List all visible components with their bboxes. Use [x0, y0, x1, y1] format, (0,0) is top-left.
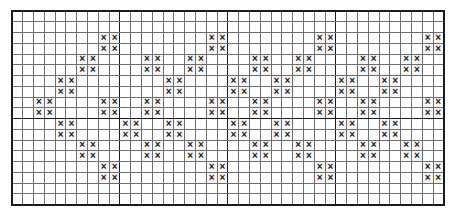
grid-cell-empty[interactable]	[239, 140, 250, 151]
grid-cell-empty[interactable]	[282, 22, 293, 33]
grid-cell-empty[interactable]	[142, 11, 153, 22]
grid-cell-empty[interactable]	[23, 54, 34, 65]
grid-cell-empty[interactable]	[55, 97, 66, 108]
grid-cell-empty[interactable]	[433, 183, 444, 194]
grid-cell-empty[interactable]	[217, 194, 228, 205]
grid-cell-filled[interactable]	[358, 151, 369, 162]
grid-cell-empty[interactable]	[12, 140, 23, 151]
grid-cell-empty[interactable]	[239, 151, 250, 162]
grid-cell-empty[interactable]	[12, 86, 23, 97]
grid-cell-filled[interactable]	[228, 129, 239, 140]
grid-cell-empty[interactable]	[55, 172, 66, 183]
grid-cell-empty[interactable]	[55, 151, 66, 162]
grid-cell-empty[interactable]	[44, 76, 55, 87]
grid-cell-empty[interactable]	[206, 140, 217, 151]
grid-cell-empty[interactable]	[12, 33, 23, 44]
grid-cell-empty[interactable]	[282, 140, 293, 151]
grid-cell-filled[interactable]	[109, 108, 120, 119]
grid-cell-filled[interactable]	[250, 151, 261, 162]
grid-cell-empty[interactable]	[379, 33, 390, 44]
grid-cell-empty[interactable]	[120, 183, 131, 194]
grid-cell-filled[interactable]	[433, 43, 444, 54]
grid-cell-empty[interactable]	[358, 119, 369, 130]
grid-cell-empty[interactable]	[411, 22, 422, 33]
grid-cell-empty[interactable]	[152, 76, 163, 87]
grid-cell-filled[interactable]	[250, 108, 261, 119]
grid-cell-empty[interactable]	[174, 97, 185, 108]
grid-cell-empty[interactable]	[98, 194, 109, 205]
grid-cell-empty[interactable]	[293, 172, 304, 183]
grid-cell-empty[interactable]	[250, 76, 261, 87]
grid-cell-empty[interactable]	[304, 22, 315, 33]
grid-cell-empty[interactable]	[109, 194, 120, 205]
grid-cell-empty[interactable]	[239, 43, 250, 54]
grid-cell-empty[interactable]	[55, 11, 66, 22]
grid-cell-empty[interactable]	[314, 129, 325, 140]
grid-cell-filled[interactable]	[304, 65, 315, 76]
grid-cell-empty[interactable]	[401, 86, 412, 97]
grid-cell-empty[interactable]	[304, 172, 315, 183]
grid-cell-empty[interactable]	[34, 11, 45, 22]
grid-cell-empty[interactable]	[23, 76, 34, 87]
grid-cell-filled[interactable]	[217, 43, 228, 54]
grid-cell-empty[interactable]	[217, 54, 228, 65]
grid-cell-empty[interactable]	[433, 194, 444, 205]
grid-cell-empty[interactable]	[239, 162, 250, 173]
grid-cell-filled[interactable]	[325, 172, 336, 183]
grid-cell-filled[interactable]	[282, 86, 293, 97]
grid-cell-filled[interactable]	[206, 108, 217, 119]
grid-cell-empty[interactable]	[44, 140, 55, 151]
grid-cell-empty[interactable]	[174, 33, 185, 44]
grid-cell-empty[interactable]	[98, 129, 109, 140]
grid-cell-filled[interactable]	[390, 86, 401, 97]
grid-cell-empty[interactable]	[131, 151, 142, 162]
grid-cell-filled[interactable]	[368, 151, 379, 162]
grid-cell-empty[interactable]	[77, 119, 88, 130]
grid-cell-empty[interactable]	[120, 54, 131, 65]
grid-cell-empty[interactable]	[293, 119, 304, 130]
grid-cell-empty[interactable]	[66, 140, 77, 151]
grid-cell-empty[interactable]	[347, 22, 358, 33]
grid-cell-empty[interactable]	[271, 11, 282, 22]
grid-cell-empty[interactable]	[23, 65, 34, 76]
grid-cell-empty[interactable]	[163, 140, 174, 151]
grid-cell-filled[interactable]	[358, 65, 369, 76]
grid-cell-filled[interactable]	[325, 108, 336, 119]
grid-cell-empty[interactable]	[282, 172, 293, 183]
grid-cell-empty[interactable]	[174, 43, 185, 54]
grid-cell-filled[interactable]	[260, 65, 271, 76]
grid-cell-empty[interactable]	[23, 151, 34, 162]
grid-cell-empty[interactable]	[77, 33, 88, 44]
grid-cell-empty[interactable]	[163, 33, 174, 44]
grid-cell-empty[interactable]	[390, 11, 401, 22]
grid-cell-empty[interactable]	[55, 43, 66, 54]
grid-cell-empty[interactable]	[336, 11, 347, 22]
grid-cell-empty[interactable]	[163, 194, 174, 205]
grid-cell-empty[interactable]	[120, 33, 131, 44]
grid-cell-empty[interactable]	[77, 22, 88, 33]
grid-cell-filled[interactable]	[142, 65, 153, 76]
grid-cell-empty[interactable]	[433, 54, 444, 65]
grid-cell-empty[interactable]	[368, 76, 379, 87]
grid-cell-empty[interactable]	[44, 22, 55, 33]
grid-cell-empty[interactable]	[304, 76, 315, 87]
grid-cell-empty[interactable]	[77, 97, 88, 108]
grid-cell-empty[interactable]	[401, 108, 412, 119]
grid-cell-empty[interactable]	[12, 194, 23, 205]
grid-cell-empty[interactable]	[109, 76, 120, 87]
grid-cell-filled[interactable]	[98, 108, 109, 119]
grid-cell-filled[interactable]	[174, 86, 185, 97]
grid-cell-empty[interactable]	[174, 22, 185, 33]
grid-cell-empty[interactable]	[293, 22, 304, 33]
grid-cell-filled[interactable]	[379, 129, 390, 140]
grid-cell-filled[interactable]	[152, 108, 163, 119]
grid-cell-empty[interactable]	[271, 33, 282, 44]
grid-cell-empty[interactable]	[66, 43, 77, 54]
grid-cell-empty[interactable]	[185, 194, 196, 205]
grid-cell-empty[interactable]	[271, 140, 282, 151]
grid-cell-empty[interactable]	[174, 162, 185, 173]
grid-cell-empty[interactable]	[44, 162, 55, 173]
grid-cell-empty[interactable]	[185, 183, 196, 194]
grid-cell-empty[interactable]	[34, 22, 45, 33]
grid-cell-empty[interactable]	[347, 172, 358, 183]
